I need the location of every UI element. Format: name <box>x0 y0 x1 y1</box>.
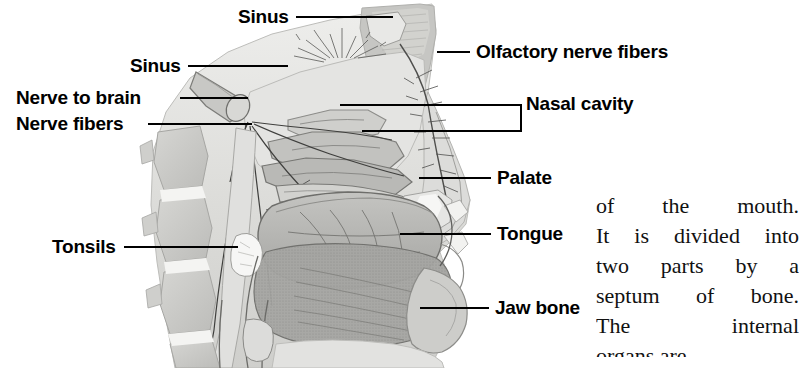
diagram-page: Sinus Sinus Nerve to brain Nerve fibers … <box>0 0 805 368</box>
label-jaw-bone[interactable]: Jaw bone <box>495 298 580 318</box>
body-text-line: Itisdividedinto <box>596 221 799 251</box>
body-text-line: twopartsbya <box>596 251 799 281</box>
label-sinus-top[interactable]: Sinus <box>238 7 289 27</box>
larynx-structure <box>243 319 273 362</box>
label-tonsils[interactable]: Tonsils <box>52 237 116 257</box>
label-tongue[interactable]: Tongue <box>497 224 563 244</box>
label-sinus-second[interactable]: Sinus <box>130 56 181 76</box>
label-nerve-fibers[interactable]: Nerve fibers <box>16 114 123 134</box>
label-olfactory-nerve-fibers[interactable]: Olfactory nerve fibers <box>476 42 668 62</box>
label-palate[interactable]: Palate <box>497 168 552 188</box>
jaw-bone <box>407 268 467 353</box>
label-nerve-to-brain[interactable]: Nerve to brain <box>16 88 141 108</box>
body-text-column: ofthemouth. Itisdividedinto twopartsbya … <box>596 191 799 357</box>
body-text-line: ofthemouth. <box>596 191 799 221</box>
label-nasal-cavity[interactable]: Nasal cavity <box>526 94 633 114</box>
body-text-line: septumofbone. <box>596 281 799 311</box>
tonsil <box>231 233 263 276</box>
body-text-line-partial: organs are <box>596 341 799 357</box>
body-text-line: Theinternal <box>596 311 799 341</box>
